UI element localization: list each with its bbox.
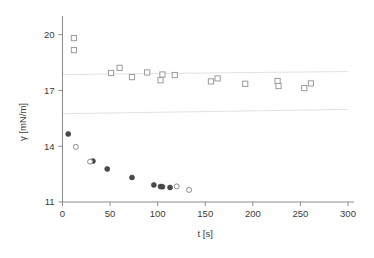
y-axis-title: γ [mN/m] <box>17 103 28 141</box>
data-point-square <box>71 48 76 53</box>
data-point-filled-circle <box>151 182 156 187</box>
lower-trend-guide <box>63 109 349 113</box>
data-point-filled-circle <box>168 185 173 190</box>
data-point-square <box>71 35 76 40</box>
y-axis-tick-labels: 11141720 <box>44 29 55 207</box>
series-upper-open-squares <box>71 35 313 90</box>
y-tick-label-11: 11 <box>45 196 55 207</box>
data-point-square <box>208 79 213 84</box>
data-point-square <box>145 70 150 75</box>
data-point-square <box>308 81 313 86</box>
data-point-square <box>172 72 177 77</box>
y-tick-label-14: 14 <box>44 141 55 152</box>
x-tick-label-200: 200 <box>245 208 261 219</box>
data-point-filled-circle <box>105 166 110 171</box>
data-point-square <box>129 75 134 80</box>
series-lower-open-circles <box>73 144 191 192</box>
scatter-chart-figure: 11141720 050100150200250300 t [s] γ [mN/… <box>0 0 374 258</box>
data-point-filled-circle <box>160 184 165 189</box>
y-tick-label-20: 20 <box>44 29 55 40</box>
y-tick-label-17: 17 <box>44 85 55 96</box>
x-tick-label-50: 50 <box>105 208 116 219</box>
data-point-square <box>158 78 163 83</box>
x-tick-label-300: 300 <box>340 208 356 219</box>
x-axis-title: t [s] <box>198 228 213 239</box>
data-point-open-circle <box>88 159 93 164</box>
x-axis-ticks <box>63 202 349 206</box>
data-point-open-circle <box>187 187 192 192</box>
data-point-open-circle <box>174 184 179 189</box>
axes <box>63 16 355 202</box>
x-axis-tick-labels: 050100150200250300 <box>60 208 356 219</box>
data-point-filled-circle <box>66 131 71 136</box>
y-axis-ticks <box>59 35 63 202</box>
series-lower-filled-circles <box>66 131 173 190</box>
data-point-square <box>275 78 280 83</box>
data-point-square <box>215 76 220 81</box>
x-tick-label-100: 100 <box>150 208 166 219</box>
x-tick-label-150: 150 <box>197 208 213 219</box>
data-point-square <box>302 85 307 90</box>
data-point-filled-circle <box>129 175 134 180</box>
trend-guide-lines <box>63 72 349 114</box>
data-point-open-circle <box>73 144 78 149</box>
data-point-square <box>117 65 122 70</box>
chart-canvas: 11141720 050100150200250300 t [s] γ [mN/… <box>0 0 374 258</box>
data-point-square <box>108 70 113 75</box>
data-point-square <box>160 72 165 77</box>
x-tick-label-0: 0 <box>60 208 65 219</box>
data-point-square <box>276 83 281 88</box>
x-tick-label-250: 250 <box>292 208 308 219</box>
upper-trend-guide <box>63 72 349 75</box>
data-point-square <box>243 81 248 86</box>
